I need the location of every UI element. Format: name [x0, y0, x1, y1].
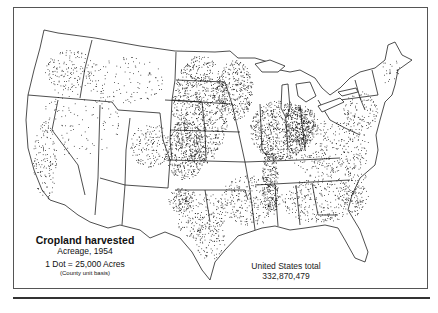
us-total: United States total 332,870,479: [240, 261, 332, 281]
us-total-label: United States total: [240, 261, 332, 271]
legend-subtitle: Acreage, 1954: [25, 246, 145, 257]
map-legend: Cropland harvested Acreage, 1954 1 Dot =…: [25, 234, 145, 277]
us-total-value: 332,870,479: [240, 271, 332, 281]
bottom-rule: [13, 297, 430, 299]
legend-title: Cropland harvested: [25, 234, 145, 246]
legend-basis: (County unit basis): [25, 270, 145, 277]
great-lakes: [255, 60, 358, 118]
legend-scale: 1 Dot = 25,000 Acres: [25, 259, 145, 270]
